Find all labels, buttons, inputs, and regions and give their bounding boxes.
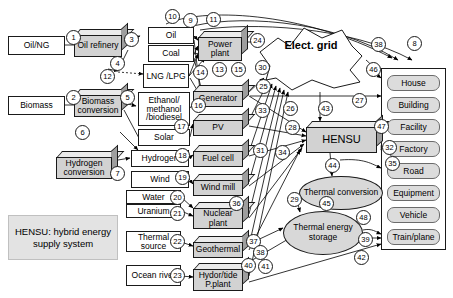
block-front-face: Fuel cell	[193, 151, 243, 167]
generation-unit-pv[interactable]: PV	[193, 114, 249, 136]
conversion-block-oil-refinery[interactable]: Oil refinery	[74, 29, 128, 57]
demand-item-train-plane[interactable]: Train/plane	[387, 229, 440, 245]
generation-unit-power-plant[interactable]: Power plant	[198, 31, 248, 61]
flow-number-badge: 4	[110, 56, 125, 71]
flow-number-badge: 8	[407, 36, 422, 51]
block-side-face	[241, 25, 248, 55]
flow-number-badge: 47	[374, 119, 389, 134]
block-front-face: Biomass conversion	[74, 95, 122, 117]
carrier-label: Oil	[166, 31, 176, 40]
block-label: Oil refinery	[77, 41, 118, 50]
flow-number-badge: 20	[170, 190, 185, 205]
block-side-face	[242, 139, 249, 161]
unit-label: Nuclear plant	[194, 209, 242, 227]
flow-number-badge: 39	[358, 232, 373, 247]
flow-number-badge: 17	[174, 119, 189, 134]
source-box-oil-ng[interactable]: Oil/NG	[8, 36, 65, 55]
conversion-block-hydrogen-conversion[interactable]: Hydrogen conversion	[56, 151, 118, 179]
demand-item-equipment[interactable]: Equipment	[387, 185, 440, 201]
block-side-face	[242, 168, 249, 190]
unit-label: Hydor/tide P.plant	[194, 271, 242, 289]
flow-number-badge: 24	[250, 33, 265, 48]
carrier-box-oil[interactable]: Oil	[148, 27, 194, 44]
flow-number-badge: 41	[258, 259, 273, 274]
diagram-canvas: Oil/NG Biomass Water Uranium Thermal sou…	[0, 0, 453, 298]
flow-number-badge: 3	[124, 32, 139, 47]
demand-item-vehicle[interactable]: Vehicle	[387, 207, 440, 223]
unit-label: Geothermal	[196, 245, 240, 254]
carrier-label: Wind	[150, 175, 169, 184]
demand-item-facility[interactable]: Facility	[387, 119, 440, 135]
carrier-box-coal[interactable]: Coal	[148, 45, 194, 62]
flow-number-badge: 34	[275, 145, 290, 160]
flow-number-badge: 19	[175, 170, 190, 185]
flow-number-badge: 31	[253, 143, 268, 158]
flow-number-badge: 27	[352, 93, 367, 108]
flow-number-badge: 44	[325, 158, 340, 173]
generation-unit-geothermal[interactable]: Geothermal	[193, 236, 249, 258]
flow-number-badge: 2	[66, 90, 81, 105]
flow-number-badge: 25	[256, 79, 271, 94]
thermal-conversion-node[interactable]: Thermal conversion	[299, 176, 383, 210]
block-front-face: Oil refinery	[74, 35, 122, 57]
source-label: Water	[142, 193, 164, 202]
flow-number-badge: 15	[231, 62, 246, 77]
block-label: Biomass conversion	[75, 97, 121, 115]
generation-unit-fuel-cell[interactable]: Fuel cell	[193, 145, 249, 167]
block-front-face: Nuclear plant	[193, 208, 243, 229]
hensu-hub[interactable]: HENSU	[306, 121, 383, 153]
flow-number-badge: 29	[287, 192, 302, 207]
block-front-face: HENSU	[306, 127, 377, 153]
flow-number-badge: 28	[285, 120, 300, 135]
flow-number-badge: 38	[371, 37, 386, 52]
carrier-label: Coal	[162, 49, 179, 58]
flow-number-badge: 12	[100, 69, 115, 84]
flow-number-badge: 22	[170, 234, 185, 249]
grid-blob-shape	[256, 22, 366, 92]
flow-number-badge: 11	[206, 12, 221, 27]
flow-number-badge: 23	[170, 268, 185, 283]
block-side-face	[242, 108, 249, 130]
source-label: Oil/NG	[24, 41, 50, 50]
flow-number-badge: 16	[191, 98, 206, 113]
flow-number-badge: 14	[193, 65, 208, 80]
flow-number-badge: 46	[366, 62, 381, 77]
flow-number-badge: 38	[253, 245, 268, 260]
block-side-face	[242, 79, 249, 101]
unit-label: PV	[212, 123, 223, 132]
flow-number-badge: 48	[356, 210, 371, 225]
block-front-face: Wind mill	[193, 180, 243, 196]
flow-number-badge: 33	[255, 103, 270, 118]
flow-number-badge: 6	[75, 125, 90, 140]
flow-number-badge: 13	[212, 62, 227, 77]
flow-number-badge: 10	[165, 9, 180, 24]
hub-label: HENSU	[322, 134, 361, 146]
block-front-face: Geothermal	[193, 242, 243, 258]
flow-number-badge: 45	[319, 196, 334, 211]
block-front-face: Hydrogen conversion	[56, 157, 112, 179]
flow-number-badge: 40	[241, 258, 256, 273]
legend-box: HENSU: hybrid energy supply system	[8, 215, 118, 260]
flow-number-badge: 26	[283, 101, 298, 116]
carrier-label: Solar	[154, 133, 174, 142]
legend-text: HENSU: hybrid energy supply system	[9, 226, 117, 250]
source-box-biomass[interactable]: Biomass	[8, 96, 65, 115]
flow-number-badge: 43	[318, 101, 333, 116]
generation-unit-wind-mill[interactable]: Wind mill	[193, 174, 249, 196]
electricity-grid-node[interactable]: Elect. grid	[256, 22, 366, 92]
source-label: Biomass	[20, 101, 53, 110]
demand-item-building[interactable]: Building	[387, 97, 440, 113]
block-front-face: PV	[193, 120, 243, 136]
flow-number-badge: 42	[354, 250, 369, 265]
unit-label: Power plant	[199, 40, 241, 58]
carrier-box-lng-lpg[interactable]: LNG /LPG	[143, 64, 189, 88]
block-label: Hydrogen conversion	[57, 159, 111, 177]
unit-label: Wind mill	[201, 183, 235, 192]
thermal-energy-storage-node[interactable]: Thermal energy storage	[283, 211, 363, 255]
unit-label: Fuel cell	[202, 154, 234, 163]
node-label: Thermal energy storage	[284, 223, 362, 242]
flow-number-badge: 21	[170, 206, 185, 221]
demand-item-house[interactable]: House	[387, 75, 440, 91]
flow-number-badge: 18	[175, 148, 190, 163]
carrier-label: Hydrogen	[142, 154, 179, 163]
